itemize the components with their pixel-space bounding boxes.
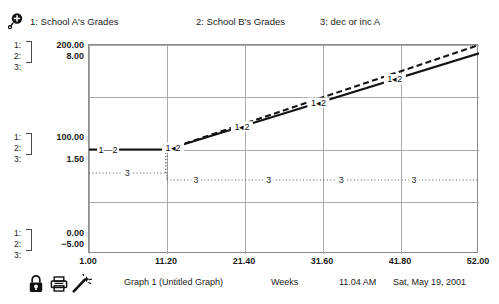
x-axis-tick-2: 21.40 (233, 256, 256, 266)
plot-canvas[interactable]: 1—21◂21◂21◂21◂233333 (89, 45, 479, 254)
data-point-label: 3 (192, 175, 201, 185)
svg-text:1◂2: 1◂2 (166, 143, 181, 153)
x-axis-tick-5: 52.00 (467, 256, 490, 266)
svg-text:1◂2: 1◂2 (311, 98, 326, 108)
data-point-label: 3 (264, 175, 273, 185)
legend-item-school-a[interactable]: 1: School A's Grades (30, 15, 118, 28)
svg-text:1◂2: 1◂2 (234, 122, 249, 132)
legend-item-dec-or-inc-a[interactable]: 3: dec or inc A (320, 15, 380, 28)
legend-item-school-b[interactable]: 2: School B's Grades (196, 15, 285, 28)
status-date: Sat, May 19, 2001 (393, 277, 466, 287)
svg-text:3: 3 (411, 175, 416, 185)
status-toolbar (28, 274, 98, 296)
data-point-label: 1—2 (97, 144, 119, 154)
x-axis-tick-labels: 1.0011.2021.4031.6041.8052.00 (0, 256, 499, 270)
wand-icon[interactable] (72, 274, 92, 296)
data-point-labels-layer: 1—21◂21◂21◂21◂233333 (97, 74, 418, 185)
legend: 1: School A's Grades 2: School B's Grade… (0, 12, 499, 32)
svg-text:1—2: 1—2 (99, 145, 118, 155)
x-axis-tick-4: 41.80 (389, 256, 412, 266)
svg-text:3: 3 (339, 175, 344, 185)
y-axis-value-3[interactable]: 1.50 (26, 154, 84, 166)
data-point-label: 1◂2 (162, 142, 184, 152)
svg-text:3: 3 (266, 175, 271, 185)
svg-text:1◂2: 1◂2 (387, 74, 402, 84)
data-point-label: 1◂2 (307, 98, 329, 108)
x-axis-tick-3: 31.60 (311, 256, 334, 266)
data-series-layer (89, 45, 479, 180)
printer-icon[interactable] (50, 274, 68, 296)
y-axis-labels-top: 1: 2: 3: 200.00 8.00 (0, 40, 88, 80)
series-3-line (89, 173, 479, 180)
svg-text:3: 3 (194, 175, 199, 185)
y-axis-labels-middle: 1: 2: 3: 100.00 1.50 (0, 132, 88, 172)
y-axis-value-1[interactable]: 0.00 (26, 228, 84, 240)
data-point-label: 3 (410, 175, 419, 185)
plot-area[interactable]: 1—21◂21◂21◂21◂233333 (88, 44, 478, 253)
lock-icon[interactable] (28, 274, 44, 296)
svg-text:3: 3 (125, 168, 130, 178)
status-graph-name: Graph 1 (Untitled Graph) (124, 277, 223, 287)
y-axis-value-2[interactable]: 8.00 (26, 51, 84, 63)
x-axis-tick-0: 1.00 (79, 256, 97, 266)
data-point-label: 1◂2 (231, 121, 253, 131)
data-point-label: 1◂2 (384, 74, 406, 84)
status-x-axis-name: Weeks (271, 277, 298, 287)
lollipop-magnifier-icon[interactable] (8, 12, 28, 30)
y-axis-value-1[interactable]: 100.00 (26, 132, 84, 144)
y-axis-value-2[interactable]: −5.00 (26, 239, 84, 251)
y-axis-value-1[interactable]: 200.00 (26, 40, 84, 52)
x-axis-tick-1: 11.20 (155, 256, 177, 266)
y-axis-index-3: 3: (14, 62, 28, 74)
data-point-label: 3 (123, 168, 132, 178)
data-point-label: 3 (337, 175, 346, 185)
series-1-line (89, 53, 479, 149)
status-bar: Graph 1 (Untitled Graph) Weeks 11.04 AM … (0, 274, 499, 298)
status-time: 11.04 AM (339, 277, 376, 287)
